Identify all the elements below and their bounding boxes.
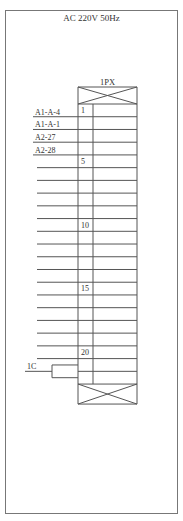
wire-label: A2-28 — [35, 146, 55, 155]
terminal-number: 15 — [81, 284, 89, 293]
wire-label: A1-A-1 — [35, 120, 60, 129]
terminal-number: 20 — [81, 348, 89, 357]
wire-label: A2-27 — [35, 133, 55, 142]
terminal-number: 1 — [81, 106, 85, 115]
terminal-number: 10 — [81, 221, 89, 230]
wire-label: A1-A-4 — [35, 108, 60, 117]
terminal-block-diagram — [0, 0, 183, 521]
jumper-label: 1C — [27, 362, 36, 371]
terminal-number: 5 — [81, 157, 85, 166]
